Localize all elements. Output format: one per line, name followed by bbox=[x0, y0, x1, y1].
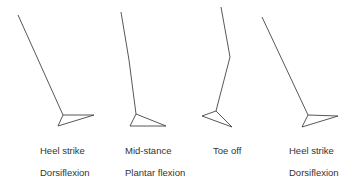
leg-line bbox=[262, 17, 308, 115]
phase-toe-off bbox=[202, 7, 232, 127]
leg-line bbox=[216, 7, 230, 111]
motion-label-plantar-flexion: Plantar flexion bbox=[125, 167, 185, 178]
leg-line bbox=[121, 12, 136, 114]
phase-label-heel-strike-1: Heel strike bbox=[40, 145, 85, 156]
foot-triangle bbox=[130, 114, 166, 126]
foot-triangle bbox=[58, 115, 94, 126]
phase-label-heel-strike-2: Heel strike bbox=[289, 145, 334, 156]
phase-heel-strike-1 bbox=[18, 15, 94, 126]
phase-label-mid-stance: Mid-stance bbox=[125, 145, 171, 156]
motion-label-dorsiflexion-1: Dorsiflexion bbox=[40, 167, 90, 178]
phase-label-toe-off: Toe off bbox=[213, 145, 241, 156]
foot-triangle bbox=[302, 115, 338, 127]
phase-heel-strike-2 bbox=[262, 17, 338, 127]
foot-triangle bbox=[202, 111, 232, 127]
gait-diagram bbox=[0, 0, 353, 192]
phase-mid-stance bbox=[121, 12, 166, 126]
motion-label-dorsiflexion-2: Dorsiflexion bbox=[289, 167, 339, 178]
leg-line bbox=[18, 15, 63, 115]
